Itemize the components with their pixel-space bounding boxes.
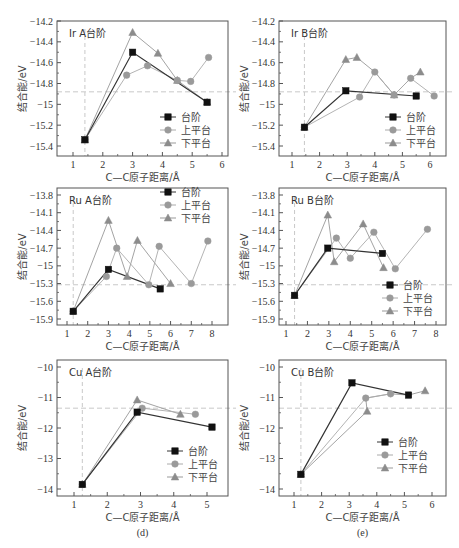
x-tick-label: 3 bbox=[326, 328, 331, 339]
triangle-marker-icon bbox=[324, 211, 332, 218]
circle-marker-icon bbox=[431, 93, 438, 100]
triangle-marker-icon bbox=[380, 264, 388, 271]
legend-label: 上平台 bbox=[188, 458, 218, 470]
x-tick-label: 1 bbox=[292, 499, 297, 510]
y-tick-label: −15.3 bbox=[30, 278, 53, 289]
triangle-marker-icon bbox=[421, 387, 429, 394]
circle-marker-icon bbox=[165, 202, 172, 209]
legend-label: 台阶 bbox=[398, 436, 418, 448]
square-marker-icon bbox=[70, 308, 76, 314]
y-tick-label: −14.4 bbox=[30, 225, 53, 236]
plot-frame bbox=[279, 188, 446, 325]
circle-marker-icon bbox=[205, 238, 212, 245]
x-tick-label: 1 bbox=[284, 328, 289, 339]
x-tick-label: 2 bbox=[85, 328, 90, 339]
circle-marker-icon bbox=[387, 391, 394, 398]
x-tick-label: 5 bbox=[369, 328, 374, 339]
series-line bbox=[85, 32, 207, 139]
y-tick-label: −11 bbox=[38, 392, 53, 403]
panel-title: Cu A台阶 bbox=[69, 366, 112, 378]
circle-marker-icon bbox=[192, 411, 199, 418]
x-tick-label: 5 bbox=[205, 499, 210, 510]
legend-label: 台阶 bbox=[188, 445, 208, 457]
square-marker-icon bbox=[291, 292, 297, 298]
legend: 台阶上平台下平台 bbox=[385, 111, 436, 149]
subfigure-label: (e) bbox=[357, 527, 368, 539]
y-tick-label: −14.1 bbox=[252, 207, 275, 218]
circle-marker-icon bbox=[174, 77, 181, 84]
circle-marker-icon bbox=[347, 255, 354, 262]
legend-label: 上平台 bbox=[406, 124, 436, 136]
square-marker-icon bbox=[405, 392, 411, 398]
y-tick-label: −14.8 bbox=[30, 78, 53, 89]
legend-label: 下平台 bbox=[181, 137, 211, 149]
y-tick-label: −12 bbox=[259, 423, 275, 434]
y-tick-label: −13.8 bbox=[30, 190, 53, 201]
x-tick-label: 8 bbox=[210, 328, 215, 339]
chart-panels: −14.2−14.4−14.6−14.8−15−15.2−15.4123456C… bbox=[16, 16, 454, 540]
series-line bbox=[73, 269, 160, 311]
x-tick-label: 4 bbox=[171, 499, 176, 510]
y-tick-label: −14.1 bbox=[30, 207, 53, 218]
triangle-marker-icon bbox=[353, 53, 361, 60]
circle-marker-icon bbox=[391, 92, 398, 99]
square-marker-icon bbox=[79, 481, 85, 487]
y-axis-title: 结合能/eV bbox=[16, 405, 28, 452]
panel-title: Cu B台阶 bbox=[291, 366, 334, 378]
triangle-marker-icon bbox=[134, 236, 142, 243]
series-line bbox=[295, 248, 383, 295]
circle-marker-icon bbox=[156, 243, 163, 250]
square-marker-icon bbox=[343, 88, 349, 94]
square-marker-icon bbox=[204, 99, 210, 105]
triangle-marker-icon bbox=[105, 216, 113, 223]
y-tick-label: −13 bbox=[259, 453, 275, 464]
square-marker-icon bbox=[82, 137, 88, 143]
y-tick-label: −11 bbox=[260, 392, 275, 403]
circle-marker-icon bbox=[123, 72, 130, 79]
series-line bbox=[82, 408, 195, 484]
circle-marker-icon bbox=[172, 461, 179, 468]
y-tick-label: −14.6 bbox=[30, 57, 53, 68]
legend-label: 下平台 bbox=[188, 471, 218, 483]
y-tick-label: −15.4 bbox=[30, 141, 53, 152]
circle-marker-icon bbox=[187, 78, 194, 85]
circle-marker-icon bbox=[407, 75, 414, 82]
x-tick-label: 6 bbox=[391, 328, 396, 339]
x-axis-title: C—C原子距离/Å bbox=[105, 511, 179, 523]
y-tick-label: −12 bbox=[37, 423, 53, 434]
square-marker-icon bbox=[105, 266, 111, 272]
square-marker-icon bbox=[325, 245, 331, 251]
y-tick-label: −14.7 bbox=[30, 243, 53, 254]
y-tick-label: −14.6 bbox=[252, 57, 275, 68]
legend-label: 下平台 bbox=[403, 305, 433, 317]
circle-marker-icon bbox=[165, 127, 172, 134]
y-tick-label: −13 bbox=[37, 453, 53, 464]
y-tick-label: −15 bbox=[259, 99, 275, 110]
circle-marker-icon bbox=[188, 280, 195, 287]
series-line bbox=[301, 391, 425, 475]
subfigure-label: (d) bbox=[137, 527, 149, 539]
circle-marker-icon bbox=[392, 266, 399, 273]
square-marker-icon bbox=[157, 286, 163, 292]
x-axis-title: C—C原子距离/Å bbox=[325, 340, 399, 352]
circle-marker-icon bbox=[424, 226, 431, 233]
circle-marker-icon bbox=[144, 62, 151, 69]
series-line bbox=[301, 394, 391, 475]
y-tick-label: −15 bbox=[259, 260, 275, 271]
x-tick-label: 5 bbox=[147, 328, 152, 339]
y-tick-label: −15.9 bbox=[30, 314, 53, 325]
legend-label: 下平台 bbox=[398, 462, 428, 474]
y-tick-label: −13.8 bbox=[252, 190, 275, 201]
legend-label: 下平台 bbox=[406, 137, 436, 149]
y-axis-title: 结合能/eV bbox=[238, 405, 250, 452]
x-tick-label: 4 bbox=[372, 159, 377, 170]
legend: 台阶上平台下平台 bbox=[167, 445, 218, 483]
square-marker-icon bbox=[390, 114, 396, 120]
circle-marker-icon bbox=[372, 69, 379, 76]
square-marker-icon bbox=[298, 471, 304, 477]
square-marker-icon bbox=[349, 380, 355, 386]
chart-panel-4: −13.8−14.1−14.4−14.7−15−15.3−15.6−15.912… bbox=[238, 188, 454, 352]
circle-marker-icon bbox=[387, 295, 394, 302]
x-tick-label: 1 bbox=[72, 499, 77, 510]
y-tick-label: −15.2 bbox=[30, 120, 53, 131]
